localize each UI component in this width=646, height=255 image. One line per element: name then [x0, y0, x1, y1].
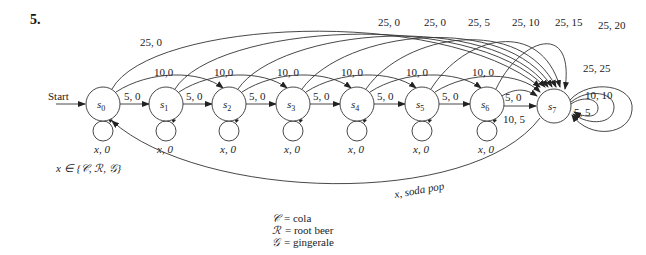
- state-s0: s0: [86, 87, 120, 121]
- svg-text:5, 0: 5, 0: [249, 90, 266, 102]
- legend: 𝒞= cola ℛ= root beer 𝒢= gingerale: [272, 212, 334, 248]
- state-s6: s6: [470, 87, 504, 121]
- svg-text:x, 0: x, 0: [347, 143, 364, 155]
- svg-text:10, 10: 10, 10: [585, 89, 613, 101]
- svg-text:25, 5: 25, 5: [468, 16, 491, 28]
- svg-text:25, 25: 25, 25: [583, 62, 611, 74]
- problem-number: 5.: [30, 12, 41, 27]
- s7-self-loops: 25, 25 10, 10 5, 5: [570, 62, 632, 131]
- svg-text:10, 0: 10, 0: [341, 66, 364, 78]
- svg-text:5, 0: 5, 0: [313, 90, 330, 102]
- svg-text:10,0: 10,0: [214, 66, 234, 78]
- svg-text:𝒞= cola: 𝒞= cola: [272, 212, 311, 224]
- svg-text:25, 10: 25, 10: [512, 16, 540, 28]
- svg-text:25, 0: 25, 0: [424, 16, 447, 28]
- svg-text:10, 5: 10, 5: [503, 113, 526, 125]
- svg-text:5, 0: 5, 0: [505, 91, 522, 103]
- nickel-labels: 5, 0 5, 0 5, 0 5, 0 5, 0 5, 0 5, 0: [124, 90, 522, 103]
- svg-text:5, 0: 5, 0: [186, 90, 203, 102]
- state-diagram: 5. Start 25, 0 25, 0 25, 0 25, 5 25, 10 …: [0, 0, 646, 255]
- return-label: x, soda pop: [392, 179, 445, 200]
- svg-text:10, 0: 10, 0: [472, 66, 495, 78]
- quarter-edges: [112, 31, 566, 89]
- svg-text:x, 0: x, 0: [93, 143, 110, 155]
- return-edge: [112, 118, 540, 184]
- state-s7: s7: [537, 89, 571, 123]
- state-s2: s2: [212, 87, 246, 121]
- self-loop-labels: x, 0 x, 0 x, 0 x, 0 x, 0 x, 0 x, 0: [93, 143, 494, 155]
- svg-text:5, 5: 5, 5: [574, 106, 591, 118]
- svg-text:25, 0: 25, 0: [378, 16, 401, 28]
- svg-text:𝒢= gingerale: 𝒢= gingerale: [272, 236, 334, 248]
- svg-text:25, 15: 25, 15: [555, 16, 583, 28]
- svg-text:ℛ= root beer: ℛ= root beer: [272, 224, 334, 236]
- svg-text:5, 0: 5, 0: [377, 90, 394, 102]
- svg-text:x, 0: x, 0: [219, 143, 236, 155]
- start-label: Start: [48, 90, 69, 102]
- self-loops: [93, 118, 497, 141]
- svg-text:10, 0: 10, 0: [277, 66, 300, 78]
- svg-text:x, 0: x, 0: [477, 143, 494, 155]
- state-s1: s1: [149, 87, 183, 121]
- svg-text:5, 0: 5, 0: [124, 90, 141, 102]
- svg-text:x, 0: x, 0: [283, 143, 300, 155]
- svg-text:25, 0: 25, 0: [140, 36, 163, 48]
- svg-text:10, 0: 10, 0: [406, 66, 429, 78]
- state-s4: s4: [340, 87, 374, 121]
- state-s5: s5: [405, 87, 439, 121]
- svg-text:10,0: 10,0: [154, 66, 174, 78]
- x-domain: x ∈ {𝒞, ℛ, 𝒢}: [55, 162, 122, 174]
- svg-text:25, 20: 25, 20: [598, 19, 626, 31]
- svg-text:x, 0: x, 0: [412, 143, 429, 155]
- state-s3: s3: [276, 87, 310, 121]
- dime-labels: 10,0 10,0 10, 0 10, 0 10, 0 10, 0 10, 5: [154, 66, 526, 125]
- svg-text:5, 0: 5, 0: [442, 90, 459, 102]
